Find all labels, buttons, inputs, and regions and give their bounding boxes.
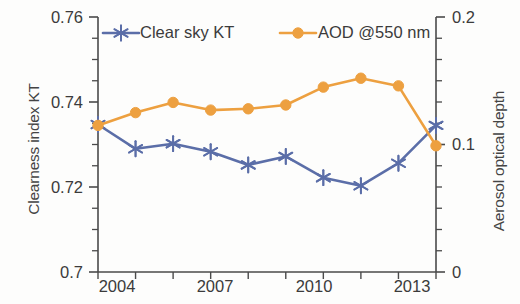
plot-area	[0, 0, 520, 304]
legend-swatch-aod-550nm	[280, 28, 316, 38]
series-clear-sky-kt	[92, 117, 443, 193]
series-layer	[92, 73, 443, 193]
legend-swatch-clear-sky-kt	[103, 26, 139, 41]
legend-swatches	[103, 26, 316, 41]
left-axis-ticks	[89, 17, 98, 272]
chart-figure: Clearness index KT Aerosol optical depth…	[0, 0, 520, 304]
series-aod-550nm	[93, 73, 441, 151]
x-axis-ticks	[98, 272, 436, 279]
